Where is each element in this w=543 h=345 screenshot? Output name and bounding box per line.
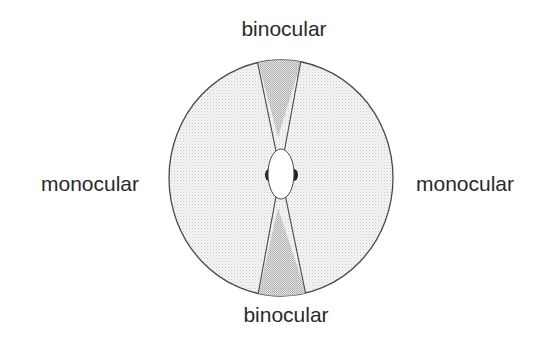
visual-field-diagram: binocular binocular monocular monocular xyxy=(0,0,543,345)
label-binocular-top: binocular xyxy=(241,17,326,40)
head-icon xyxy=(268,149,294,199)
label-binocular-bottom: binocular xyxy=(243,303,328,326)
label-monocular-right: monocular xyxy=(416,172,514,195)
label-monocular-left: monocular xyxy=(41,172,139,195)
